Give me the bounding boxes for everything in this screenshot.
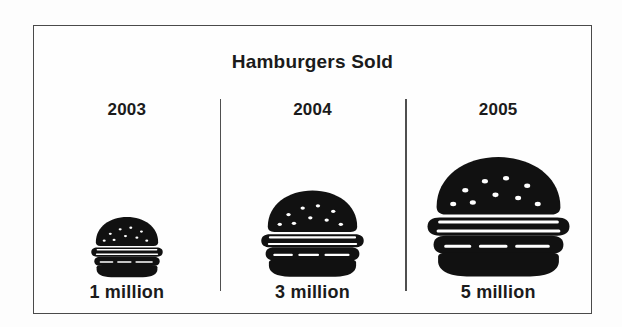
hamburger-icon [423, 151, 574, 278]
pictograph-column-2003: 2003 [34, 96, 220, 315]
pictograph-column-2004: 2004 [220, 96, 406, 315]
value-label: 5 million [461, 282, 536, 303]
pictograph-columns: 2003 [34, 96, 591, 315]
burger-slot [405, 120, 591, 282]
year-label: 2003 [108, 100, 147, 120]
burger-slot [220, 120, 406, 282]
value-label: 3 million [275, 282, 350, 303]
column-divider [220, 99, 222, 291]
chart-title: Hamburgers Sold [34, 51, 591, 73]
year-label: 2004 [293, 100, 332, 120]
hamburger-icon [258, 186, 367, 278]
hamburger-icon [89, 214, 165, 278]
pictograph-frame: Hamburgers Sold 2003 [33, 25, 592, 314]
year-label: 2005 [479, 100, 518, 120]
pictograph-column-2005: 2005 [405, 96, 591, 315]
column-divider [405, 99, 407, 291]
burger-slot [34, 120, 220, 282]
value-label: 1 million [89, 282, 164, 303]
